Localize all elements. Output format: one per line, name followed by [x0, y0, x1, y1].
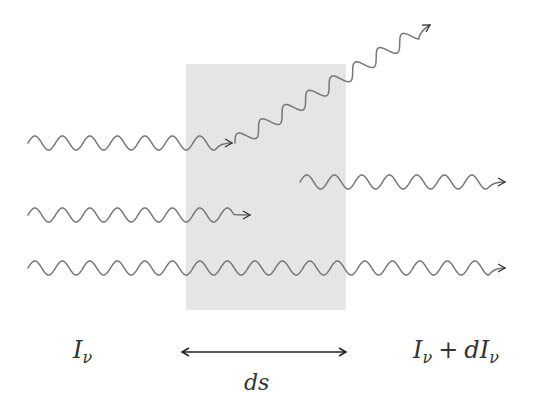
thickness-label: ds [244, 372, 269, 394]
incoming-intensity-label: Iν [73, 338, 92, 366]
outgoing-intensity-label: Iν+dIν [413, 338, 499, 366]
